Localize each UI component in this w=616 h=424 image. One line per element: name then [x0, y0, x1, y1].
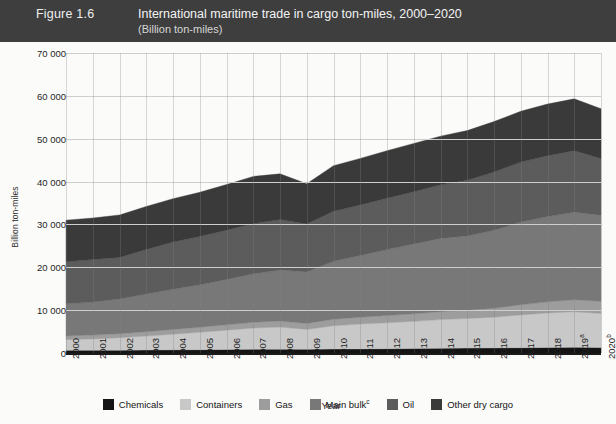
x-axis-tick-label: 2019a	[578, 334, 590, 359]
figure-header-bar: Figure 1.6 International maritime trade …	[0, 0, 616, 42]
x-axis-tick-mark	[414, 53, 415, 353]
x-axis-tick-mark	[93, 53, 94, 353]
x-axis-tick-label: 2001	[97, 338, 108, 359]
x-axis-tick-label: 2009	[311, 338, 322, 359]
legend-item-gas[interactable]: Gas	[259, 399, 292, 410]
x-axis-tick-mark	[441, 53, 442, 353]
legend-label: Gas	[275, 399, 292, 410]
x-axis-tick-mark	[601, 53, 602, 353]
legend-swatch-icon	[387, 399, 398, 410]
legend-label: Other dry cargo	[447, 399, 513, 410]
x-axis-tick-mark	[120, 53, 121, 353]
x-axis-tick-mark	[574, 53, 575, 353]
x-axis-tick-label: 2006	[231, 338, 242, 359]
x-axis-tick-label: 2003	[150, 338, 161, 359]
x-axis-tick-label: 2017	[525, 338, 536, 359]
legend-label: Oil	[403, 399, 415, 410]
figure-container: Figure 1.6 International maritime trade …	[0, 0, 616, 424]
x-axis-tick-label: 2004	[177, 338, 188, 359]
legend-item-oil[interactable]: Oil	[387, 399, 415, 410]
legend-swatch-icon	[310, 399, 321, 410]
y-axis-tick-label: 10 000	[14, 305, 66, 316]
x-axis-tick-label: 2007	[257, 338, 268, 359]
legend-swatch-icon	[259, 399, 270, 410]
legend-swatch-icon	[431, 399, 442, 410]
y-axis-tick-label: 40 000	[14, 176, 66, 187]
x-axis-tick-mark	[253, 53, 254, 353]
figure-number: Figure 1.6	[36, 7, 94, 21]
x-axis-tick-label: 2013	[418, 338, 429, 359]
x-axis-tick-label: 2015	[471, 338, 482, 359]
x-axis-tick-label: 2008	[284, 338, 295, 359]
legend-item-containers[interactable]: Containers	[180, 399, 242, 410]
x-axis-tick-label: 2012	[391, 338, 402, 359]
x-axis-tick-label: 2005	[204, 338, 215, 359]
legend-item-other-dry-cargo[interactable]: Other dry cargo	[431, 399, 513, 410]
y-axis-ticks: 010 00020 00030 00040 00050 00060 00070 …	[9, 42, 66, 424]
x-axis-tick-mark	[467, 53, 468, 353]
x-axis-tick-mark	[521, 53, 522, 353]
x-axis-tick-label: 2010	[338, 338, 349, 359]
legend-label: Chemicals	[119, 399, 163, 410]
x-axis-tick-mark	[200, 53, 201, 353]
x-axis-tick-mark	[334, 53, 335, 353]
y-axis-tick-label: 0	[14, 348, 66, 359]
x-axis-tick-mark	[227, 53, 228, 353]
x-axis-line	[66, 353, 601, 355]
y-axis-tick-label: 30 000	[14, 219, 66, 230]
legend-label: Main bulkc	[326, 398, 370, 410]
x-axis-tick-label: 2014	[445, 338, 456, 359]
x-axis-tick-mark	[280, 53, 281, 353]
legend-label: Containers	[196, 399, 242, 410]
x-axis-tick-label: 2002	[124, 338, 135, 359]
y-axis-tick-label: 50 000	[14, 133, 66, 144]
figure-title: International maritime trade in cargo to…	[138, 7, 462, 21]
x-axis-tick-label: 2018	[552, 338, 563, 359]
chart-plot-area: Billion ton-miles 010 00020 00030 00040 …	[0, 42, 616, 424]
x-axis-tick-label: 2020b	[605, 334, 616, 359]
chart-legend: ChemicalsContainersGasMain bulkcOilOther…	[0, 398, 616, 410]
x-axis-tick-mark	[66, 53, 67, 353]
x-axis-tick-label: 2000	[70, 338, 81, 359]
x-axis-tick-mark	[494, 53, 495, 353]
legend-swatch-icon	[103, 399, 114, 410]
y-axis-tick-label: 70 000	[14, 48, 66, 59]
y-axis-tick-label: 20 000	[14, 262, 66, 273]
y-axis-tick-label: 60 000	[14, 90, 66, 101]
legend-item-main-bulk[interactable]: Main bulkc	[310, 398, 370, 410]
x-axis-tick-mark	[173, 53, 174, 353]
x-axis-tick-mark	[360, 53, 361, 353]
legend-swatch-icon	[180, 399, 191, 410]
x-axis-tick-label: 2016	[498, 338, 509, 359]
x-axis-tick-mark	[146, 53, 147, 353]
legend-item-chemicals[interactable]: Chemicals	[103, 399, 163, 410]
x-axis-tick-label: 2011	[364, 339, 375, 359]
x-axis-tick-mark	[307, 53, 308, 353]
x-axis-tick-mark	[387, 53, 388, 353]
figure-subtitle: (Billion ton-miles)	[138, 23, 222, 35]
x-axis-tick-mark	[548, 53, 549, 353]
